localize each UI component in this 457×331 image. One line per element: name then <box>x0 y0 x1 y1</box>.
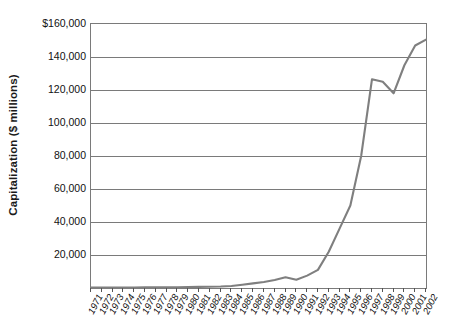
capitalization-polyline <box>91 40 426 288</box>
y-axis-title: Capitalization ($ millions) <box>0 0 26 290</box>
data-series-line <box>91 24 426 288</box>
y-axis-tick-label: 80,000 <box>54 149 86 161</box>
y-axis-tick-label: 20,000 <box>54 248 86 260</box>
x-axis-tick-labels: 1971197219731974197519761977197819791980… <box>90 292 427 331</box>
capitalization-line-chart: Capitalization ($ millions) $160,000140,… <box>0 0 457 331</box>
y-axis-tick-label: 60,000 <box>54 182 86 194</box>
plot-area <box>90 23 427 289</box>
y-axis-tick-label: 140,000 <box>48 50 86 62</box>
y-axis-title-text: Capitalization ($ millions) <box>7 74 19 215</box>
y-axis-tick-label: 40,000 <box>54 215 86 227</box>
y-axis-tick-label: $160,000 <box>42 17 86 29</box>
y-axis-tick-label: 100,000 <box>48 116 86 128</box>
y-axis-tick-labels: $160,000140,000120,000100,00080,00060,00… <box>26 0 90 300</box>
y-axis-tick-label: 120,000 <box>48 83 86 95</box>
